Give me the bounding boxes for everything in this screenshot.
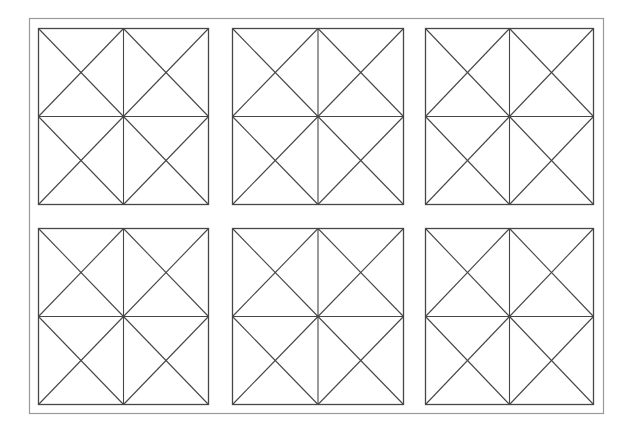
square-r1-c2 (233, 29, 404, 205)
square-r2-c2 (233, 229, 404, 405)
outer-frame (30, 19, 604, 414)
square-r2-c3 (426, 229, 594, 405)
diagram-canvas (0, 0, 632, 435)
squares-group (39, 29, 594, 405)
square-r1-c3 (426, 29, 594, 205)
square-r2-c1 (39, 229, 209, 405)
square-r1-c1 (39, 29, 209, 205)
